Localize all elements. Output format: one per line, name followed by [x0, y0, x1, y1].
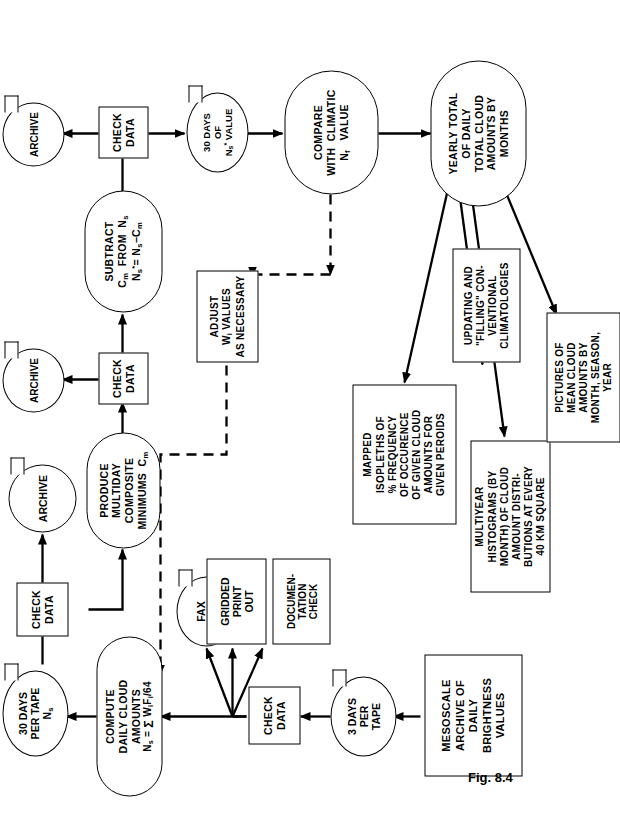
tape-body: 30 DAYS PER TAPE Ns [2, 670, 68, 756]
node-label-line-3: TOTAL CLOUD [472, 94, 485, 171]
node-label-line-4: MINIMUMS Cm [135, 451, 149, 529]
node-label-line-2: Cm FROM Ns [115, 215, 129, 287]
node-label-line-3: AMOUNTS [129, 688, 142, 743]
node-label-line-3: AS NECESSARY [234, 275, 246, 357]
document-body: DOCUMEN- TATION CHECK [272, 558, 330, 644]
node-documentation-check[interactable]: DOCUMEN- TATION CHECK [272, 558, 330, 644]
tape-flag-icon [332, 669, 346, 686]
node-label-line-2: MULTIDAY [109, 463, 122, 518]
node-label-line-4: AMOUNTS BY [484, 96, 497, 170]
node-label-line-3: Nf VALUE [337, 104, 351, 161]
node-label-line-1: SUBTRACT [102, 221, 115, 281]
tape-flag-icon [10, 457, 24, 474]
node-label: CHECK DATA [108, 110, 138, 155]
node-check-data-1[interactable]: CHECK DATA [248, 686, 300, 744]
node-label-line-2: OF [211, 125, 222, 138]
tape-body: 30 DAYS OF Ns* VALUE [186, 92, 248, 172]
node-archive-3[interactable]: ARCHIVE [2, 102, 64, 166]
node-label: 3 DAYS PER TAPE [343, 695, 383, 738]
node-label-line-1: ADJUST [208, 295, 220, 337]
node-label-line-3: Ns* VALUE [222, 108, 234, 156]
node-label: 30 DAYS PER TAPE [16, 687, 40, 739]
node-three-days-tape[interactable]: 3 DAYS PER TAPE [330, 676, 396, 756]
node-label: MESOSCALE ARCHIVE OF DAILY BRIGHTNESS VA… [437, 674, 508, 755]
node-label-line-1: PRODUCE [97, 463, 110, 518]
node-mapped-isopleths[interactable]: MAPPED ISOPLETHS OF % FREQUENCY OF OCCUR… [352, 384, 456, 524]
node-label: PICTURES OF MEAN CLOUD AMOUNTS BY MONTH,… [551, 328, 616, 425]
node-thirty-days-per-tape[interactable]: 30 DAYS PER TAPE Ns [2, 670, 68, 756]
node-check-data-4[interactable]: CHECK DATA [98, 106, 148, 158]
node-label-line-1: 30 DAYS [200, 113, 211, 152]
node-gridded-print-out[interactable]: GRIDDED PRINT OUT [206, 558, 266, 644]
node-archive-1[interactable]: ARCHIVE [8, 464, 76, 532]
node-label: ARCHIVE [36, 474, 48, 521]
node-label-line-2: Wi VALUES [220, 288, 234, 345]
node-label-line-1: COMPARE [311, 105, 324, 160]
node-symbol: Ns [40, 707, 54, 719]
tape-flag-icon [188, 85, 202, 102]
node-label: DOCUMEN- TATION CHECK [283, 571, 320, 632]
node-compute-daily-cloud-amounts[interactable]: COMPUTE DAILY CLOUD AMOUNTS Ns = Σ WiFi/… [96, 636, 162, 796]
node-label-line-2: OF DAILY [459, 108, 472, 158]
node-check-data-2[interactable]: CHECK DATA [16, 582, 68, 636]
node-label: MULTIYEAR HISTOGRAMS (BY MONTH) OF CLOUD… [471, 462, 548, 569]
node-multiyear-histograms[interactable]: MULTIYEAR HISTOGRAMS (BY MONTH) OF CLOUD… [470, 440, 550, 592]
node-label: ARCHIVE [28, 358, 39, 403]
node-mesoscale-archive[interactable]: MESOSCALE ARCHIVE OF DAILY BRIGHTNESS VA… [424, 654, 522, 776]
document-body: GRIDDED PRINT OUT [206, 558, 266, 644]
node-label: ARCHIVE [28, 112, 39, 157]
node-label-line-3: Ns*= Ns−Cm [129, 221, 144, 280]
node-label: CHECK DATA [108, 356, 138, 401]
node-check-data-3[interactable]: CHECK DATA [98, 352, 148, 404]
node-label-line-3: COMPOSITE [122, 457, 135, 523]
node-subtract[interactable]: SUBTRACT Cm FROM Ns Ns*= Ns−Cm [84, 190, 162, 312]
node-updating-filling[interactable]: UPDATING AND "FILLING" CON- VENTIONAL CL… [452, 248, 520, 362]
node-label: CHECK DATA [259, 693, 289, 738]
tape-flag-icon [4, 341, 18, 358]
node-yearly-total[interactable]: YEARLY TOTAL OF DAILY TOTAL CLOUD AMOUNT… [430, 60, 526, 206]
node-label-line-1: YEARLY TOTAL [446, 92, 459, 174]
node-label: CHECK DATA [27, 587, 57, 632]
node-thirty-days-of-value[interactable]: 30 DAYS OF Ns* VALUE [186, 92, 248, 172]
tape-flag-icon [4, 663, 18, 680]
node-formula: Ns = Σ WiFi/64 [141, 681, 155, 752]
node-adjust-w-values[interactable]: ADJUST Wi VALUES AS NECESSARY [196, 270, 258, 362]
tape-flag-icon [4, 95, 18, 112]
node-pictures-mean-cloud[interactable]: PICTURES OF MEAN CLOUD AMOUNTS BY MONTH,… [546, 312, 620, 442]
tape-flag-icon [178, 569, 192, 586]
tape-body: 3 DAYS PER TAPE [330, 676, 396, 756]
node-label-line-5: MONTHS [497, 109, 510, 156]
node-label: UPDATING AND "FILLING" CON- VENTIONAL CL… [460, 259, 513, 351]
node-compare-with-climatic[interactable]: COMPARE WITH CLIMATIC Nf VALUE [284, 70, 378, 194]
node-archive-2[interactable]: ARCHIVE [2, 348, 64, 412]
node-produce-multiday-composite[interactable]: PRODUCE MULTIDAY COMPOSITE MINIMUMS Cm [86, 432, 160, 548]
node-label: GRIDDED PRINT OUT [216, 574, 256, 628]
node-label-line-1: COMPUTE [103, 689, 116, 744]
node-label-line-2: DAILY CLOUD [116, 679, 129, 753]
node-label: MAPPED ISOPLETHS OF % FREQUENCY OF OCCUR… [359, 406, 448, 502]
figure-caption: Fig. 8.4 [468, 770, 513, 785]
node-label-line-2: WITH CLIMATIC [324, 89, 337, 175]
